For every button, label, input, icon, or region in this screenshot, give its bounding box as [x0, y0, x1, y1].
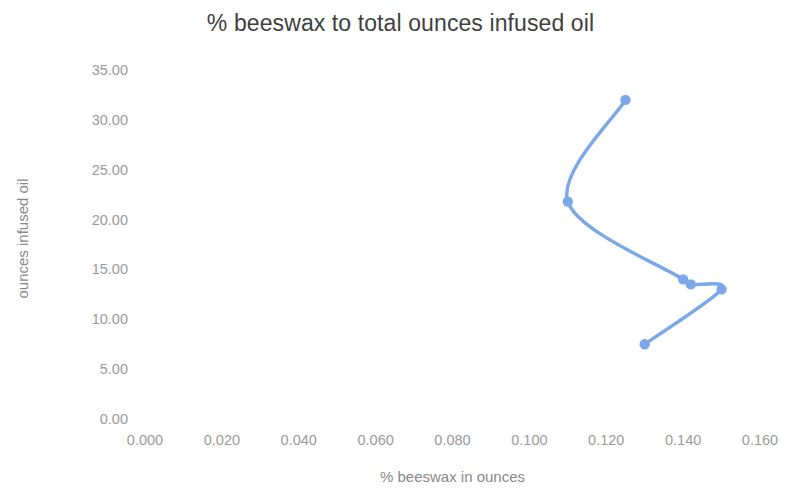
series-line — [567, 100, 723, 344]
data-series-layer — [563, 95, 727, 350]
data-point-marker[interactable] — [686, 279, 696, 289]
data-point-marker[interactable] — [563, 196, 573, 206]
data-point-marker[interactable] — [639, 339, 649, 349]
chart-container: % beeswax to total ounces infused oil ou… — [0, 0, 801, 497]
plot-area — [0, 0, 801, 497]
data-point-marker[interactable] — [620, 95, 630, 105]
data-point-marker[interactable] — [716, 284, 726, 294]
